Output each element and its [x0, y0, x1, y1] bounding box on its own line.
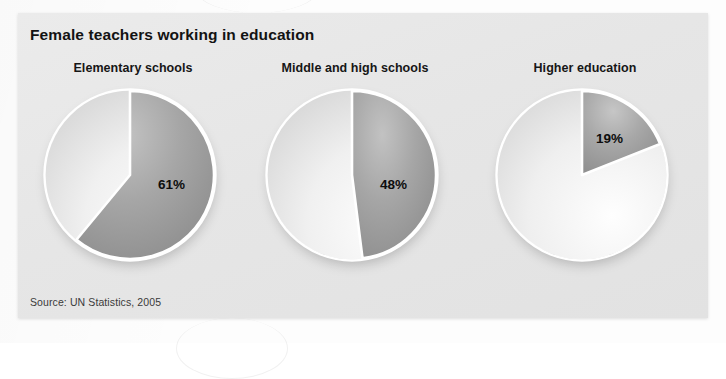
chart-card: Female teachers working in education Ele…: [18, 13, 708, 318]
pie-panel-middle-and-high-schools: Middle and high schools: [240, 61, 470, 286]
pie-value-middle-and-high-schools: 48%: [380, 177, 407, 192]
pie-label-higher-education: Higher education: [470, 61, 700, 75]
pie-value-elementary-schools: 61%: [158, 177, 185, 192]
pie-chart-higher-education: 19%: [492, 85, 678, 271]
pie-value-higher-education: 19%: [596, 131, 623, 146]
pie-panel-elementary-schools: Elementary schools: [18, 61, 248, 286]
source-note: Source: UN Statistics, 2005: [30, 296, 161, 308]
pie-svg-elementary-schools: [40, 85, 226, 271]
paper-crease-bottom: [176, 318, 288, 379]
pie-panel-higher-education: Higher education: [470, 61, 700, 286]
pie-svg-higher-education: [492, 85, 678, 271]
page-title: Female teachers working in education: [30, 26, 314, 44]
pie-label-elementary-schools: Elementary schools: [18, 61, 248, 75]
pie-chart-group: Elementary schools: [18, 61, 708, 286]
pie-slice-female: [352, 91, 436, 258]
pie-chart-middle-and-high-schools: 48%: [262, 85, 448, 271]
pie-label-middle-and-high-schools: Middle and high schools: [240, 61, 470, 75]
pie-chart-elementary-schools: 61%: [40, 85, 226, 271]
paper-crease-top: [196, 0, 318, 13]
pie-svg-middle-and-high-schools: [262, 85, 448, 271]
